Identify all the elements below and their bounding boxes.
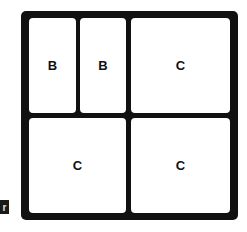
cell-c-bottom-left: C <box>29 118 126 213</box>
cell-c-top-right: C <box>131 18 230 113</box>
cell-c-bottom-right: C <box>131 118 230 213</box>
cell-b-2: B <box>80 18 126 113</box>
corner-tab: r <box>0 200 9 214</box>
grid-frame: B B C C C <box>21 11 238 220</box>
cell-b-1: B <box>29 18 76 113</box>
